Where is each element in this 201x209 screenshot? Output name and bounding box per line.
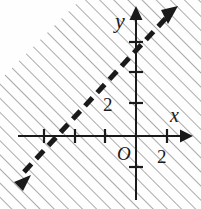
y-tick-label-2: 2	[103, 94, 113, 115]
inequality-graph-figure: y x O 2 2	[0, 0, 201, 209]
y-axis-label: y	[113, 8, 125, 33]
x-tick-label-2: 2	[157, 146, 167, 167]
origin-label: O	[117, 143, 131, 164]
x-axis-label: x	[169, 104, 179, 126]
graph-canvas: y x O 2 2	[0, 0, 201, 209]
